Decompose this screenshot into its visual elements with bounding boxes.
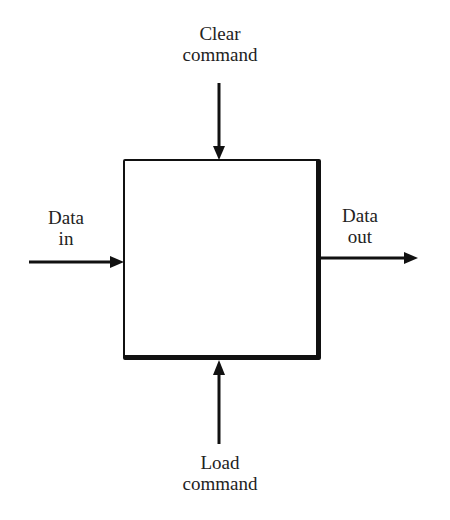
data-in-arrow-icon — [29, 256, 124, 268]
clear-command-line1: Clear — [180, 23, 260, 44]
clear-command-line2: command — [180, 44, 260, 65]
load-command-label: Load command — [178, 452, 262, 494]
data-out-line2: out — [330, 226, 390, 247]
load-command-arrow-icon — [213, 360, 225, 444]
load-command-line2: command — [178, 473, 262, 494]
register-block-diagram: Clear command Data in Data out Load comm… — [0, 0, 450, 520]
data-out-label: Data out — [330, 205, 390, 247]
data-in-label: Data in — [36, 207, 96, 249]
data-in-line1: Data — [36, 207, 96, 228]
data-out-line1: Data — [330, 205, 390, 226]
data-out-arrow-icon — [318, 252, 418, 264]
clear-command-label: Clear command — [180, 23, 260, 65]
load-command-line1: Load — [178, 452, 262, 473]
clear-command-arrow-icon — [213, 83, 225, 160]
arrows-layer — [0, 0, 450, 520]
data-in-line2: in — [36, 228, 96, 249]
